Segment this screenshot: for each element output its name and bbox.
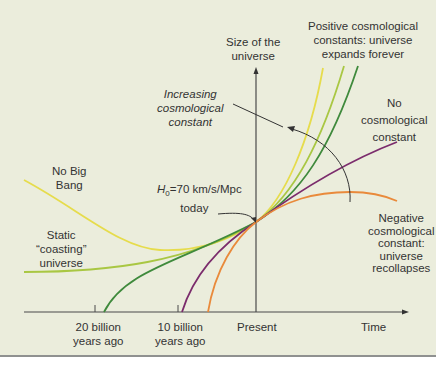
label-line: recollapses [368, 262, 434, 275]
label-static: Static “coasting” universe [36, 228, 87, 270]
tick-label-line: 10 billion [155, 320, 206, 334]
label-line: constant [361, 129, 427, 146]
label-line: cosmological [361, 112, 427, 129]
label-line: No [361, 95, 427, 112]
tick-label-present: Present [237, 320, 277, 334]
label-line: cosmological [157, 101, 223, 115]
tick-label-line: years ago [73, 334, 124, 348]
label-line: Positive cosmological [308, 19, 418, 33]
y-label-line: universe [226, 49, 280, 63]
label-line: No Big [52, 164, 87, 178]
label-negative: Negative cosmological constant: universe… [368, 212, 434, 275]
tick-label-10b: 10 billion years ago [155, 320, 206, 348]
increasing-leader-line [233, 104, 283, 127]
label-no-constant: No cosmological constant [361, 95, 427, 146]
label-no-big-bang: No Big Bang [52, 164, 87, 192]
diagram-panel: Size of the universe Positive cosmologic… [0, 0, 436, 357]
y-axis-label: Size of the universe [226, 35, 280, 63]
tick-label-line: Present [237, 320, 277, 334]
h0-today: today [147, 201, 242, 215]
y-axis-arrow-icon [254, 67, 259, 74]
x-axis-label: Time [361, 320, 386, 334]
tick-label-line: 20 billion [73, 320, 124, 334]
tick-label-line: years ago [155, 334, 206, 348]
label-line: expands forever [308, 47, 418, 61]
y-label-line: Size of the [226, 35, 280, 49]
label-line: constant [157, 115, 223, 129]
label-line: Increasing [157, 87, 223, 101]
label-line: constants: universe [308, 33, 418, 47]
x-axis-arrow-icon [402, 310, 409, 315]
label-positive: Positive cosmological constants: univers… [308, 19, 418, 61]
label-line: universe [36, 256, 87, 270]
label-line: Static [36, 228, 87, 242]
increasing-arrow-icon [287, 126, 295, 132]
tick-label-20b: 20 billion years ago [73, 320, 124, 348]
h0-line: H0=70 km/s/Mpc [157, 182, 242, 201]
label-line: universe [368, 250, 434, 263]
h0-arrow-icon [251, 217, 256, 223]
label-line: constant: [368, 237, 434, 250]
x-label-text: Time [361, 320, 386, 334]
label-line: Negative [368, 212, 434, 225]
label-line: cosmological [368, 225, 434, 238]
label-h0: H0=70 km/s/Mpc today [157, 182, 242, 215]
h0-value: =70 km/s/Mpc [170, 183, 242, 195]
label-line: “coasting” [36, 242, 87, 256]
label-increasing: Increasing cosmological constant [157, 87, 223, 129]
label-line: Bang [52, 178, 87, 192]
